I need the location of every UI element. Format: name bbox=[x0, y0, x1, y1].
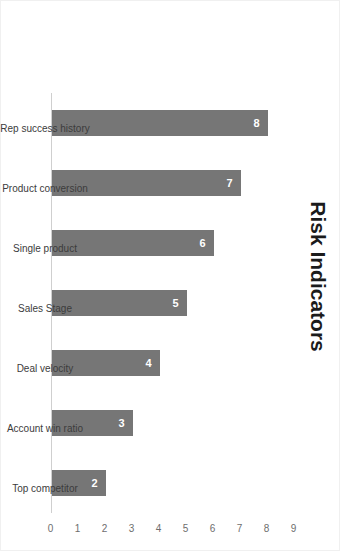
category-slot: Deal velocity bbox=[1, 333, 49, 393]
category-slot: Sales Stage bbox=[1, 273, 49, 333]
bar-slot: 6 bbox=[52, 213, 295, 273]
bar-series: 8765432 bbox=[52, 93, 295, 513]
value-tick-label: 3 bbox=[121, 523, 143, 534]
bar-slot: 5 bbox=[52, 273, 295, 333]
category-slot: Rep success history bbox=[1, 93, 49, 153]
chart-canvas: Risk Indicators 8765432 0123456789 Rep s… bbox=[0, 0, 340, 551]
category-label: Rep success history bbox=[0, 123, 89, 134]
bar-slot: 2 bbox=[52, 453, 295, 513]
value-tick-label: 5 bbox=[175, 523, 197, 534]
category-label: Product conversion bbox=[2, 183, 88, 194]
category-slot: Single product bbox=[1, 213, 49, 273]
bar-slot: 4 bbox=[52, 333, 295, 393]
bar-slot: 3 bbox=[52, 393, 295, 453]
category-label: Sales Stage bbox=[18, 303, 72, 314]
value-tick-label: 8 bbox=[256, 523, 278, 534]
bar-value-label: 4 bbox=[145, 358, 151, 369]
category-label: Top competitor bbox=[12, 483, 78, 494]
bar-chart-figure: Risk Indicators 8765432 0123456789 Rep s… bbox=[1, 1, 340, 551]
value-tick-label: 1 bbox=[67, 523, 89, 534]
value-tick-label: 7 bbox=[229, 523, 251, 534]
value-tick-label: 0 bbox=[40, 523, 62, 534]
bar-value-label: 6 bbox=[199, 238, 205, 249]
category-label: Deal velocity bbox=[17, 363, 74, 374]
bar-value-label: 8 bbox=[253, 118, 259, 129]
category-label: Single product bbox=[13, 243, 77, 254]
bar-value-label: 3 bbox=[118, 418, 124, 429]
bar-value-label: 7 bbox=[226, 178, 232, 189]
category-slot: Account win ratio bbox=[1, 393, 49, 453]
plot-area: 8765432 bbox=[51, 93, 295, 513]
bar-slot: 7 bbox=[52, 153, 295, 213]
chart-title: Risk Indicators bbox=[295, 1, 340, 551]
category-label: Account win ratio bbox=[7, 423, 83, 434]
value-tick-label: 6 bbox=[202, 523, 224, 534]
category-slot: Top competitor bbox=[1, 453, 49, 513]
category-axis-labels: Rep success historyProduct conversionSin… bbox=[1, 93, 49, 513]
value-tick-label: 4 bbox=[148, 523, 170, 534]
bar-value-label: 2 bbox=[91, 478, 97, 489]
bar[interactable]: 5 bbox=[52, 290, 187, 316]
bar-value-label: 5 bbox=[172, 298, 178, 309]
category-slot: Product conversion bbox=[1, 153, 49, 213]
value-tick-label: 2 bbox=[94, 523, 116, 534]
